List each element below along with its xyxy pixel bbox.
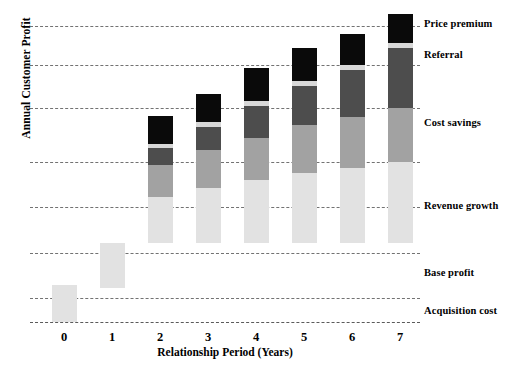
bar-segment-price-premium[interactable]	[196, 94, 221, 122]
bar-year-3[interactable]	[196, 10, 221, 322]
customer-profit-stacked-bar-chart: Annual Customer Profit 01234567 Relation…	[0, 0, 506, 369]
legend-label-revenue-growth: Revenue growth	[424, 200, 498, 211]
bar-segment-revenue-growth[interactable]	[148, 165, 173, 197]
bar-year-6[interactable]	[340, 10, 365, 322]
legend-label-acquisition-cost: Acquisition cost	[424, 305, 497, 316]
x-tick-label-3: 3	[188, 330, 228, 345]
bar-year-4[interactable]	[244, 10, 269, 322]
bar-segment-cost-savings[interactable]	[244, 106, 269, 138]
bar-segment-revenue-growth[interactable]	[388, 108, 413, 162]
bar-segment-base-profit[interactable]	[100, 243, 125, 288]
bar-segment-base-profit[interactable]	[244, 180, 269, 243]
bar-year-5[interactable]	[292, 10, 317, 322]
bar-segment-revenue-growth[interactable]	[244, 138, 269, 180]
bar-segment-price-premium[interactable]	[148, 116, 173, 144]
x-axis-title: Relationship Period (Years)	[30, 346, 420, 358]
bar-segment-referral[interactable]	[244, 101, 269, 106]
bar-segment-revenue-growth[interactable]	[292, 125, 317, 173]
bar-segment-acquisition-cost[interactable]	[52, 285, 77, 322]
bar-segment-cost-savings[interactable]	[292, 86, 317, 125]
bar-segment-base-profit[interactable]	[292, 173, 317, 243]
bar-year-7[interactable]	[388, 10, 413, 322]
bar-segment-base-profit[interactable]	[196, 188, 221, 243]
x-tick-label-0: 0	[44, 330, 84, 345]
bar-year-0[interactable]	[52, 10, 77, 322]
bar-segment-revenue-growth[interactable]	[340, 117, 365, 168]
bar-segment-referral[interactable]	[292, 81, 317, 86]
bar-segment-base-profit[interactable]	[340, 168, 365, 243]
x-tick-label-1: 1	[92, 330, 132, 345]
bar-segment-base-profit[interactable]	[388, 162, 413, 243]
bar-segment-cost-savings[interactable]	[148, 148, 173, 165]
bar-segment-revenue-growth[interactable]	[196, 150, 221, 188]
bar-segment-price-premium[interactable]	[340, 34, 365, 65]
bar-segment-referral[interactable]	[340, 65, 365, 70]
bar-segment-price-premium[interactable]	[388, 14, 413, 43]
x-tick-label-6: 6	[332, 330, 372, 345]
legend-label-base-profit: Base profit	[424, 267, 474, 278]
bar-segment-referral[interactable]	[148, 144, 173, 148]
x-tick-label-7: 7	[380, 330, 420, 345]
x-tick-label-4: 4	[236, 330, 276, 345]
plot-area: 01234567	[30, 10, 420, 323]
x-axis-line	[30, 322, 420, 323]
legend-label-referral: Referral	[424, 49, 463, 60]
bar-year-1[interactable]	[100, 10, 125, 322]
x-tick-label-2: 2	[140, 330, 180, 345]
bar-segment-base-profit[interactable]	[148, 197, 173, 243]
legend-label-price-premium: Price premium	[424, 18, 492, 29]
bar-segment-referral[interactable]	[196, 122, 221, 127]
bar-segment-cost-savings[interactable]	[196, 127, 221, 150]
bar-segment-price-premium[interactable]	[292, 48, 317, 81]
bar-segment-referral[interactable]	[388, 43, 413, 48]
bar-segment-cost-savings[interactable]	[340, 70, 365, 117]
bar-segment-cost-savings[interactable]	[388, 48, 413, 108]
legend-label-cost-savings: Cost savings	[424, 117, 481, 128]
bar-year-2[interactable]	[148, 10, 173, 322]
x-tick-label-5: 5	[284, 330, 324, 345]
bar-segment-price-premium[interactable]	[244, 68, 269, 101]
